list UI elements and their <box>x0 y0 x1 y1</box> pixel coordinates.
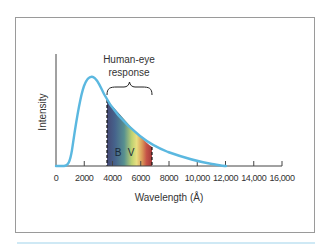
chart-svg: Human-eye response B V Intensity 0 2000 … <box>0 0 329 246</box>
tick-label-0: 0 <box>54 173 59 183</box>
human-eye-brace <box>107 82 152 95</box>
tick-label-6000: 6000 <box>132 173 151 183</box>
annotation-line1: Human-eye <box>103 54 155 65</box>
band-label-v: V <box>128 147 135 158</box>
y-axis-label: Intensity <box>37 93 48 130</box>
tick-label-10000: 10,000 <box>185 173 211 183</box>
tick-label-14000: 14,000 <box>241 173 267 183</box>
annotation-line2: response <box>108 67 150 78</box>
tick-label-12000: 12,000 <box>213 173 239 183</box>
tick-label-8000: 8000 <box>160 173 179 183</box>
x-tick-labels: 0 2000 4000 6000 8000 10,000 12,000 14,0… <box>54 173 295 183</box>
band-label-b: B <box>115 147 122 158</box>
tick-label-16000: 16,000 <box>269 173 295 183</box>
tick-label-4000: 4000 <box>103 173 122 183</box>
tick-label-2000: 2000 <box>75 173 94 183</box>
x-axis-label: Wavelength (Å) <box>135 191 204 203</box>
